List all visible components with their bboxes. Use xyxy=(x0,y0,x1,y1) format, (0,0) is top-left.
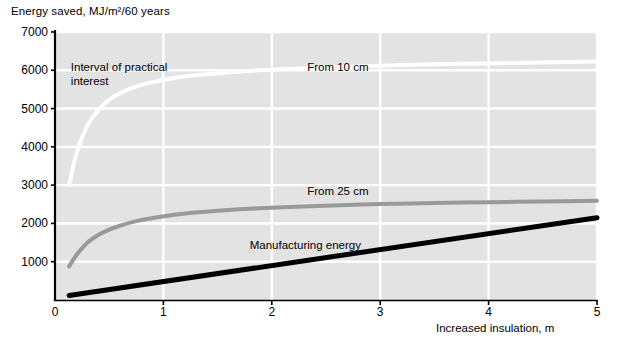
energy-saved-chart: Energy saved, MJ/m²/60 years 70006000500… xyxy=(0,0,627,346)
y-tick-label: 6000 xyxy=(4,64,48,76)
y-tick-label: 7000 xyxy=(4,26,48,38)
y-tick-label: 3000 xyxy=(4,179,48,191)
annotation-manufacturing-energy: Manufacturing energy xyxy=(250,239,361,253)
y-tick-label: 2000 xyxy=(4,217,48,229)
annotation-interval-of-practical-interest: Interval of practical interest xyxy=(71,61,168,88)
plot-canvas xyxy=(0,0,627,346)
x-axis-title: Increased insulation, m xyxy=(436,322,554,334)
x-tick-label: 5 xyxy=(585,306,609,318)
x-tick-label: 2 xyxy=(260,306,284,318)
x-tick-label: 1 xyxy=(151,306,175,318)
y-tick-label: 1000 xyxy=(4,256,48,268)
x-tick-label: 0 xyxy=(43,306,67,318)
x-tick-label: 3 xyxy=(368,306,392,318)
y-tick-label: 4000 xyxy=(4,141,48,153)
y-tick-label: 5000 xyxy=(4,103,48,115)
x-tick-label: 4 xyxy=(477,306,501,318)
annotation-from-25-cm: From 25 cm xyxy=(307,185,368,199)
annotation-from-10-cm: From 10 cm xyxy=(307,61,368,75)
